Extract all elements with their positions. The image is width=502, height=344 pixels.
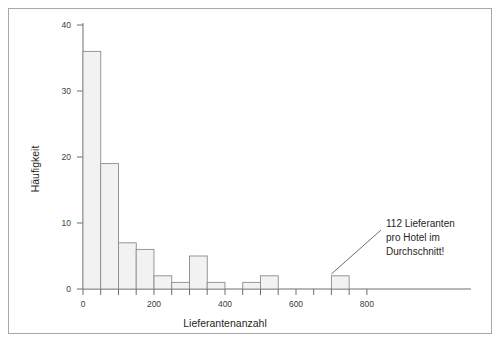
x-tick-label-800: 800 — [360, 299, 374, 309]
x-tick-label-400: 400 — [218, 299, 232, 309]
bars-group — [83, 51, 349, 289]
screenshot-root: 40 30 20 10 0 Häufigkeit — [0, 0, 502, 344]
x-tick-marks — [83, 289, 367, 295]
y-axis-title: Häufigkeit — [29, 146, 41, 193]
y-tick-label-30: 30 — [62, 86, 72, 96]
bar-bin-150-200 — [136, 249, 154, 289]
y-tick-marks — [77, 25, 83, 289]
annotation-line-1: 112 Lieferanten — [386, 218, 455, 229]
bar-bin-300-350 — [190, 256, 208, 289]
bar-bin-250-300 — [172, 282, 190, 289]
histogram-chart: 40 30 20 10 0 Häufigkeit — [9, 9, 491, 333]
annotation-line-3: Durchschnitt! — [386, 246, 444, 257]
bar-bin-500-550 — [261, 276, 279, 289]
y-tick-label-40: 40 — [62, 20, 72, 30]
bar-bin-200-250 — [154, 276, 172, 289]
y-tick-label-20: 20 — [62, 152, 72, 162]
annotation-line-2: pro Hotel im — [386, 232, 440, 243]
x-tick-label-0: 0 — [81, 299, 86, 309]
bar-bin-50-100 — [101, 164, 119, 289]
x-tick-label-600: 600 — [289, 299, 303, 309]
figure-frame: 40 30 20 10 0 Häufigkeit — [8, 8, 492, 334]
x-axis-title: Lieferantenanzahl — [183, 317, 266, 329]
annotation-leader-line — [331, 230, 381, 274]
bar-bin-700-750 — [331, 276, 349, 289]
bar-bin-350-400 — [207, 282, 225, 289]
bar-bin-450-500 — [243, 282, 261, 289]
x-tick-label-200: 200 — [147, 299, 161, 309]
bar-bin-0-50 — [83, 51, 101, 289]
bar-bin-100-150 — [119, 243, 137, 289]
y-tick-label-10: 10 — [62, 218, 72, 228]
y-tick-label-0: 0 — [66, 284, 71, 294]
